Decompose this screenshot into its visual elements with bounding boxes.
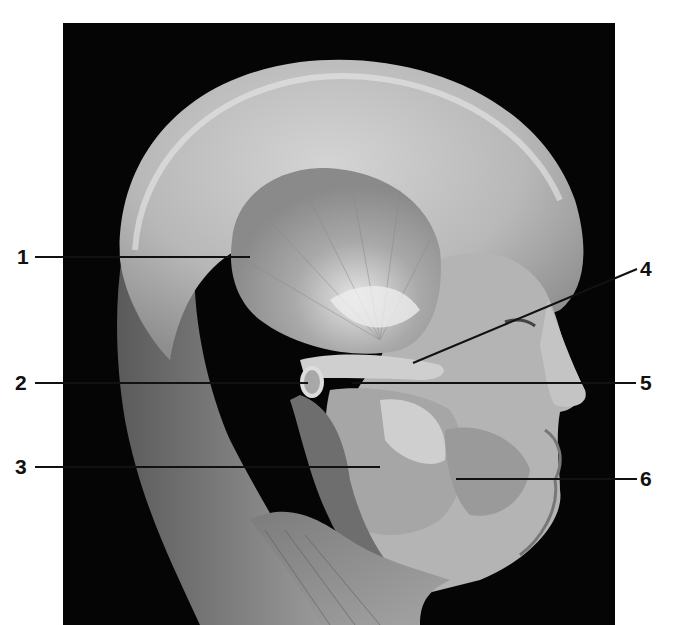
- head-dissection-photo: [0, 0, 677, 625]
- anatomy-figure: 1 2 3 4 5 6: [0, 0, 677, 625]
- label-4: 4: [640, 258, 652, 279]
- label-6: 6: [640, 468, 652, 489]
- label-5: 5: [640, 372, 652, 393]
- label-1: 1: [17, 246, 29, 267]
- label-3: 3: [15, 456, 27, 477]
- label-2: 2: [15, 372, 27, 393]
